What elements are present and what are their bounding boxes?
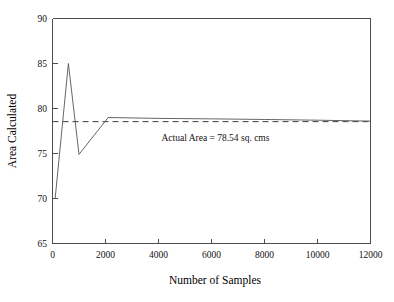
y-tick-label-70: 70 (38, 194, 48, 204)
line-chart: 90 85 80 75 70 65 0 2000 4000 6000 8000 … (0, 0, 394, 302)
chart-figure: 90 85 80 75 70 65 0 2000 4000 6000 8000 … (0, 0, 394, 302)
x-tick-labels: 0 2000 4000 6000 8000 10000 12000 (50, 250, 383, 260)
y-tick-label-85: 85 (38, 59, 48, 69)
x-tick-label-12000: 12000 (359, 250, 383, 260)
y-tick-label-75: 75 (38, 149, 48, 159)
y-axis-title: Area Calculated (6, 94, 18, 169)
x-axis-ticks (53, 239, 371, 244)
x-tick-label-4000: 4000 (149, 250, 168, 260)
y-axis-ticks (53, 19, 58, 244)
x-tick-label-10000: 10000 (306, 250, 330, 260)
y-tick-label-65: 65 (38, 239, 48, 249)
x-axis-title: Number of Samples (169, 274, 262, 287)
y-tick-labels: 90 85 80 75 70 65 (38, 14, 48, 249)
actual-area-annotation: Actual Area = 78.54 sq. cms (161, 133, 269, 143)
calculated-area-series-line (55, 64, 370, 199)
y-tick-label-90: 90 (38, 14, 48, 24)
y-tick-label-80: 80 (38, 104, 48, 114)
x-tick-label-8000: 8000 (255, 250, 274, 260)
x-tick-label-0: 0 (50, 250, 55, 260)
x-tick-label-2000: 2000 (96, 250, 115, 260)
x-tick-label-6000: 6000 (202, 250, 221, 260)
